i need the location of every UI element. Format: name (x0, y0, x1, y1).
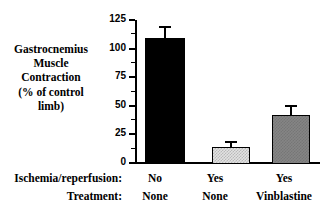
y-axis-title-line-2: Muscle (2, 56, 100, 70)
group-value-ischemia-1: No (125, 172, 185, 184)
error-bar-no-none (145, 26, 185, 39)
group-value-treatment-3: Vinblastine (245, 190, 323, 202)
bar-yes-vinblastine (272, 115, 310, 164)
y-tick-label-25: 25 (115, 127, 126, 138)
y-tick-label-100: 100 (109, 42, 126, 53)
y-tick-minor-112-5 (131, 33, 135, 34)
group-value-treatment-1: None (125, 190, 185, 202)
y-tick-75: 75 (129, 76, 135, 78)
bar-no-none (145, 38, 185, 164)
group-row-label-ischemia: Ischemia/reperfusion: (0, 172, 122, 184)
y-tick-minor-37-5 (131, 119, 135, 120)
y-tick-125: 125 (129, 19, 135, 21)
y-axis-title-line-3: Contraction (2, 70, 100, 84)
error-bar-cap (225, 141, 237, 143)
y-tick-minor-62-5 (131, 91, 135, 92)
group-value-ischemia-3: Yes (245, 172, 323, 184)
error-bar-cap (159, 26, 171, 28)
y-tick-label-0: 0 (120, 156, 126, 167)
y-axis-title-line-1: Gastrocnemius (2, 42, 100, 56)
error-bar-yes-vinblastine (272, 105, 310, 115)
y-tick-minor-12-5 (131, 148, 135, 149)
error-bar-yes-none (212, 141, 250, 147)
y-tick-100: 100 (129, 48, 135, 50)
y-axis-title: Gastrocnemius Muscle Contraction (% of c… (2, 42, 100, 113)
group-row-label-treatment: Treatment: (0, 190, 122, 202)
y-axis-line (135, 20, 137, 164)
y-tick-minor-87-5 (131, 62, 135, 63)
plot-area: 0 25 50 75 100 125 (128, 14, 318, 169)
y-axis-title-line-4: (% of control (2, 85, 100, 99)
chart-figure: Gastrocnemius Muscle Contraction (% of c… (0, 0, 332, 211)
group-value-ischemia-2: Yes (186, 172, 244, 184)
y-tick-50: 50 (129, 105, 135, 107)
y-tick-0: 0 (129, 162, 135, 164)
group-value-treatment-2: None (186, 190, 244, 202)
y-tick-label-50: 50 (115, 99, 126, 110)
y-axis-title-line-5: limb) (2, 99, 100, 113)
y-tick-25: 25 (129, 133, 135, 135)
bar-yes-none (212, 147, 250, 164)
y-tick-label-125: 125 (109, 13, 126, 24)
y-tick-label-75: 75 (115, 70, 126, 81)
error-bar-cap (285, 105, 297, 107)
